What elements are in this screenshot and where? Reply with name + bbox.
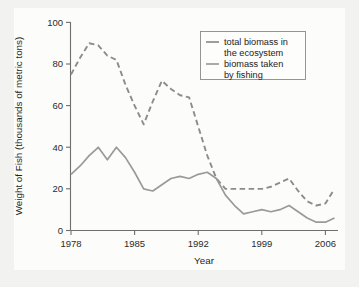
x-tick-label: 1978: [60, 238, 81, 249]
x-axis-title: Year: [194, 255, 215, 266]
y-axis-title: Weight of Fish (thousands of metric tons…: [13, 37, 24, 215]
y-axis-tick-labels: 0 20 40 60 80 100: [47, 17, 63, 236]
legend-label-biomass-fishing-line1: biomass taken: [224, 59, 283, 69]
y-tick-label: 80: [52, 58, 63, 69]
y-tick-label: 60: [52, 100, 63, 111]
y-tick-label: 20: [52, 183, 63, 194]
x-tick-label: 1985: [124, 238, 145, 249]
legend-label-biomass-fishing-line2: by fishing: [224, 70, 263, 80]
chart-legend: total biomass in the ecosystem biomass t…: [201, 32, 306, 81]
y-axis-ticks: [66, 22, 71, 230]
legend-label-total-biomass-line2: the ecosystem: [224, 48, 284, 58]
y-tick-label: 100: [47, 17, 63, 28]
y-tick-label: 40: [52, 142, 63, 153]
line-chart: 0 20 40 60 80 100 1978 1985 1992 1999 20…: [0, 0, 359, 287]
x-tick-label: 2006: [315, 238, 336, 249]
series-line-biomass-fishing: [71, 147, 334, 222]
x-axis-tick-labels: 1978 1985 1992 1999 2006: [60, 238, 336, 249]
y-tick-label: 0: [58, 225, 63, 236]
figure-container: 0 20 40 60 80 100 1978 1985 1992 1999 20…: [0, 0, 359, 287]
x-axis-ticks: [71, 231, 325, 236]
x-tick-label: 1999: [251, 238, 272, 249]
x-tick-label: 1992: [188, 238, 209, 249]
legend-label-total-biomass-line1: total biomass in: [224, 37, 288, 47]
